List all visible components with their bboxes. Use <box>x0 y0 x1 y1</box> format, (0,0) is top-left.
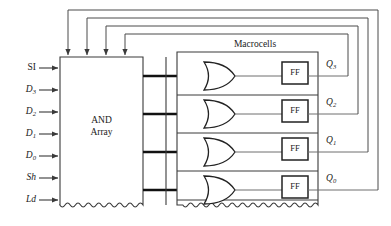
output-label-q1: Q1 <box>326 136 336 146</box>
output-label-q2: Q2 <box>326 98 336 108</box>
and-array-label-line2: Array <box>60 127 143 139</box>
output-label-q3: Q3 <box>326 60 336 70</box>
diagram-canvas <box>0 0 391 226</box>
input-label-ld: Ld <box>8 195 36 205</box>
and-array-label: AND Array <box>60 115 143 138</box>
flipflop-label-0: FF <box>282 182 308 191</box>
input-label-d2: D2 <box>8 107 36 117</box>
input-label-d0: D0 <box>8 151 36 161</box>
logic-diagram: SI D3 D2 D1 D0 Sh Ld AND Array Macrocell… <box>0 0 391 226</box>
output-label-q0: Q0 <box>326 174 336 184</box>
flipflop-label-1: FF <box>282 144 308 153</box>
and-array-label-line1: AND <box>60 115 143 127</box>
input-label-d3: D3 <box>8 85 36 95</box>
input-label-d1: D1 <box>8 129 36 139</box>
input-label-sh: Sh <box>8 173 36 183</box>
input-label-si: SI <box>8 63 36 73</box>
flipflop-label-2: FF <box>282 106 308 115</box>
input-arrows <box>39 68 58 200</box>
macrocells-title: Macrocells <box>205 40 305 50</box>
flipflop-label-3: FF <box>282 68 308 77</box>
